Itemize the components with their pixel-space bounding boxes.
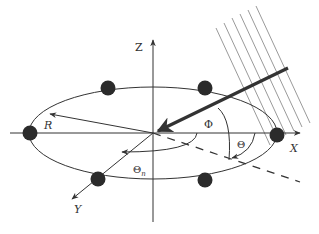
z-axis-label: Z xyxy=(135,41,143,54)
array-element xyxy=(198,173,213,188)
radius-arrow xyxy=(50,114,153,133)
theta-label: Θ xyxy=(237,139,245,150)
theta-n-main: Θ xyxy=(133,164,141,175)
x-axis-label: X xyxy=(289,142,299,155)
radius-label: R xyxy=(43,119,52,132)
theta-n-label: Θn xyxy=(133,164,146,178)
phi-label: Φ xyxy=(204,118,213,131)
array-element xyxy=(270,128,285,143)
wavefront-lines xyxy=(216,6,310,145)
circular-array-diagram: Z X Y R Φ Θ Θn xyxy=(0,0,319,234)
array-element xyxy=(101,81,116,96)
y-axis-label: Y xyxy=(74,203,83,216)
incident-wave-arrow xyxy=(158,68,288,131)
array-element xyxy=(91,172,106,187)
array-element xyxy=(23,126,38,141)
diagram-canvas: Z X Y R Φ Θ Θn xyxy=(0,0,319,234)
theta-n-subscript: n xyxy=(141,170,146,178)
phi-arc xyxy=(218,108,230,160)
array-element xyxy=(198,81,213,96)
